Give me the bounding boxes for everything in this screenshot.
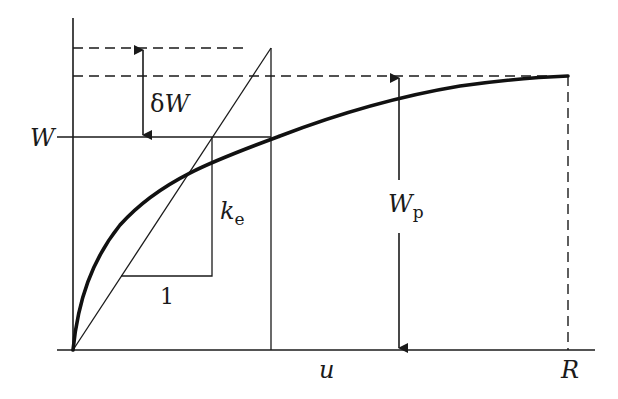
diagram-canvas: W δW ke 1 Wp u R bbox=[0, 0, 618, 399]
label-one: 1 bbox=[160, 284, 174, 309]
load-displacement-curve bbox=[73, 76, 568, 350]
label-Wp-W: W bbox=[388, 190, 415, 218]
label-u: u bbox=[319, 356, 334, 384]
label-delta-W: δW bbox=[150, 90, 191, 118]
label-k-e: ke bbox=[220, 197, 245, 229]
label-k: k bbox=[220, 197, 235, 225]
label-W: W bbox=[30, 124, 57, 152]
label-delta-symbol: δ bbox=[150, 90, 164, 118]
label-W-p: Wp bbox=[388, 190, 424, 222]
label-e-subscript: e bbox=[235, 209, 245, 229]
label-p-subscript: p bbox=[413, 202, 424, 222]
label-delta-W-var: W bbox=[164, 90, 191, 118]
label-R: R bbox=[560, 356, 579, 384]
